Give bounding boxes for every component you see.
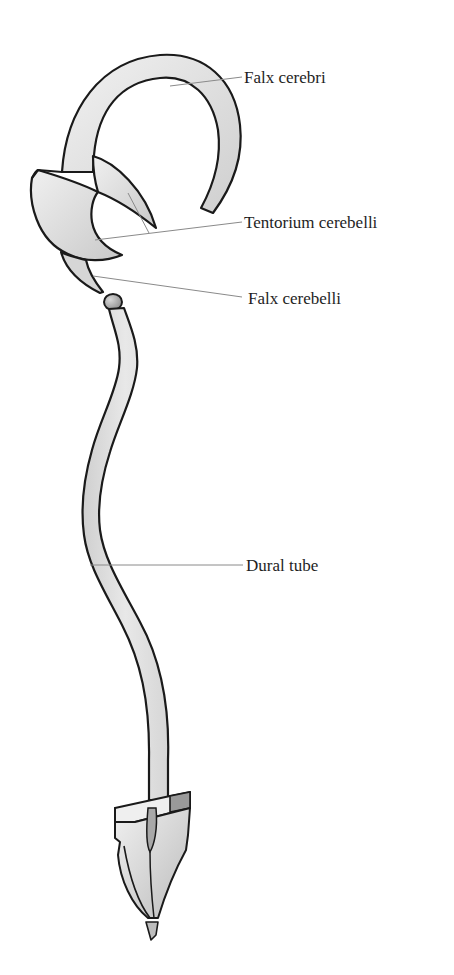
label-falx-cerebri: Falx cerebri — [244, 69, 326, 86]
sacral-block-shape — [115, 792, 190, 940]
dural-tube-shape — [82, 308, 168, 800]
label-dural-tube: Dural tube — [246, 557, 318, 574]
label-tentorium-cerebelli: Tentorium cerebelli — [244, 214, 377, 231]
label-falx-cerebelli: Falx cerebelli — [248, 290, 341, 307]
falx-inner-crescent-shape — [93, 156, 156, 228]
leader-line-tentorium-cerebelli — [95, 222, 242, 240]
dural-anatomy-diagram — [0, 0, 454, 975]
